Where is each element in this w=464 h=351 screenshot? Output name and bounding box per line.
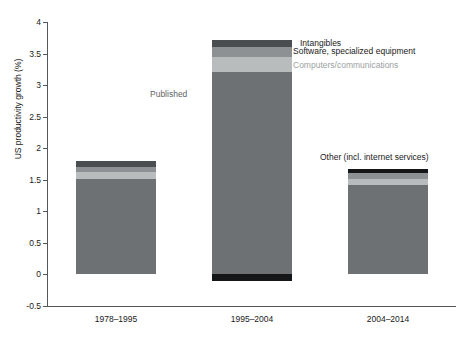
annotation-other-internet-services: Other (incl. internet services): [320, 153, 429, 163]
y-tick-label: -0.5: [0, 302, 41, 311]
bar-segment: [348, 185, 428, 274]
y-tick-mark: [43, 274, 47, 275]
y-tick-label: 0: [0, 270, 41, 279]
bar-segment: [76, 172, 156, 179]
y-tick-mark: [43, 54, 47, 55]
bar-segment: [348, 173, 428, 178]
bar-group: [212, 22, 292, 306]
y-tick-label: 4: [0, 18, 41, 27]
y-tick-mark: [43, 85, 47, 86]
bar-segment: [76, 179, 156, 275]
bar-segment: [348, 179, 428, 186]
y-tick-label: 0.5: [0, 239, 41, 248]
y-tick-mark: [43, 306, 47, 307]
y-tick-label: 2: [0, 144, 41, 153]
y-tick-label: 2.5: [0, 113, 41, 122]
bar-segment: [212, 274, 292, 281]
annotation-published: Published: [150, 90, 187, 100]
annotation-software-specialized-equipment: Software, specialized equipment: [293, 47, 415, 57]
y-tick-label: 1: [0, 207, 41, 216]
y-tick-mark: [43, 148, 47, 149]
bar-segment: [76, 167, 156, 171]
bar-segment: [212, 40, 292, 47]
x-axis-line: [47, 306, 456, 307]
y-tick-label: 3.5: [0, 50, 41, 59]
y-tick-mark: [43, 211, 47, 212]
bar-segment: [212, 57, 292, 72]
bar-segment: [348, 169, 428, 173]
annotation-computers-communications: Computers/communications: [293, 61, 398, 71]
x-tick-label: 1995–2004: [192, 314, 312, 324]
x-tick-label: 2004–2014: [328, 314, 448, 324]
bar-segment: [212, 47, 292, 57]
y-tick-mark: [43, 117, 47, 118]
y-tick-label: 1.5: [0, 176, 41, 185]
y-tick-mark: [43, 180, 47, 181]
x-tick-label: 1978–1995: [56, 314, 176, 324]
y-tick-mark: [43, 243, 47, 244]
bar-segment: [76, 161, 156, 167]
bar-segment: [212, 72, 292, 275]
y-tick-mark: [43, 22, 47, 23]
stacked-bar-chart: US productivity growth (%) -0.500.511.52…: [0, 0, 464, 351]
y-tick-label: 3: [0, 81, 41, 90]
bar-group: [76, 22, 156, 306]
